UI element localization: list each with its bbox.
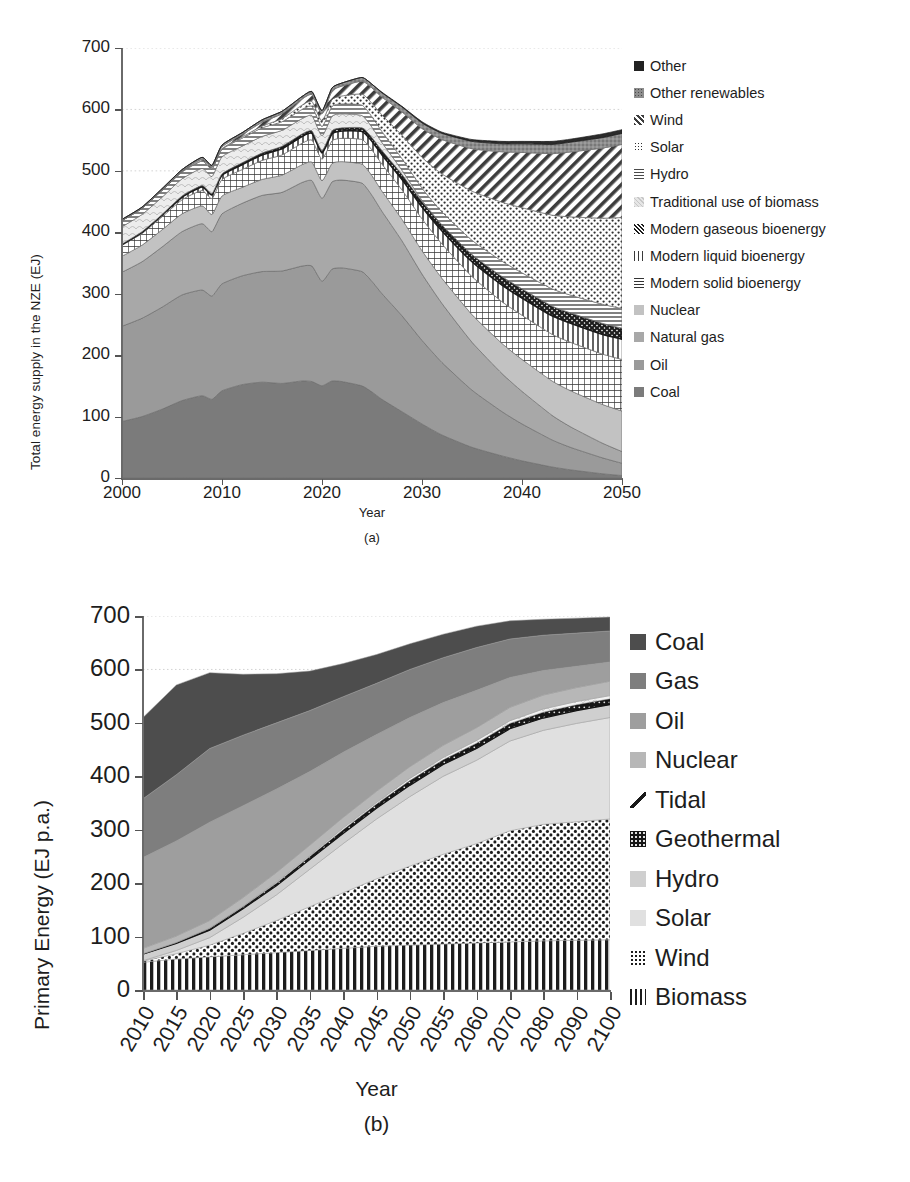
x-tickmark bbox=[410, 992, 412, 1000]
y-tickmark bbox=[115, 478, 122, 479]
legend-item-oil[interactable]: Oil bbox=[630, 701, 910, 741]
x-tickmark bbox=[510, 992, 512, 1000]
legend-swatch-icon bbox=[634, 387, 644, 397]
legend-swatch-icon bbox=[630, 634, 646, 650]
subcaption-a: (a) bbox=[122, 530, 622, 545]
figure-container: Total energy supply in the NZE (EJ) 0100… bbox=[0, 0, 910, 1182]
legend-item-coal[interactable]: Coal bbox=[634, 378, 910, 405]
legend-item-traditional-use-of-biomass[interactable]: Traditional use of biomass bbox=[634, 188, 910, 215]
subcaption-b: (b) bbox=[143, 1112, 610, 1136]
y-tickmark bbox=[115, 232, 122, 233]
x-tickmark bbox=[610, 992, 612, 1000]
legend-label: Nuclear bbox=[650, 302, 700, 318]
x-axis-title-a: Year bbox=[122, 505, 622, 520]
legend-label: Biomass bbox=[655, 983, 747, 1011]
stacked-area-svg-b bbox=[143, 616, 610, 990]
legend-label: Wind bbox=[650, 112, 683, 128]
x-tickmark bbox=[422, 479, 423, 485]
legend-item-natural-gas[interactable]: Natural gas bbox=[634, 324, 910, 351]
y-tick-label: 0 bbox=[50, 975, 130, 1003]
x-tick-label: 2020 bbox=[277, 483, 367, 503]
legend-item-solar[interactable]: Solar bbox=[630, 899, 910, 939]
y-axis-line-a bbox=[121, 48, 123, 479]
x-tickmark bbox=[577, 992, 579, 1000]
legend-swatch-icon bbox=[634, 61, 644, 71]
legend-item-modern-liquid-bioenergy[interactable]: Modern liquid bioenergy bbox=[634, 242, 910, 269]
plot-area-b bbox=[143, 616, 610, 990]
legend-item-other-renewables[interactable]: Other renewables bbox=[634, 79, 910, 106]
legend-item-modern-gaseous-bioenergy[interactable]: Modern gaseous bioenergy bbox=[634, 215, 910, 242]
legend-item-other[interactable]: Other bbox=[634, 52, 910, 79]
legend-swatch-icon bbox=[630, 792, 646, 808]
legend-swatch-icon bbox=[630, 752, 646, 768]
y-tickmark bbox=[115, 355, 122, 356]
y-tickmark bbox=[115, 109, 122, 110]
y-tickmark bbox=[135, 616, 143, 618]
x-tick-label: 2040 bbox=[477, 483, 567, 503]
legend-swatch-icon bbox=[634, 88, 644, 98]
legend-item-solar[interactable]: Solar bbox=[634, 134, 910, 161]
legend-item-oil[interactable]: Oil bbox=[634, 351, 910, 378]
y-tick-label: 600 bbox=[46, 98, 110, 118]
legend-label: Other bbox=[650, 58, 686, 74]
legend-item-nuclear[interactable]: Nuclear bbox=[634, 297, 910, 324]
y-tick-label: 500 bbox=[46, 160, 110, 180]
legend-item-wind[interactable]: Wind bbox=[634, 106, 910, 133]
x-tick-label: 2050 bbox=[577, 483, 667, 503]
chart-panel-a: Total energy supply in the NZE (EJ) 0100… bbox=[0, 0, 910, 560]
y-tick-label: 400 bbox=[50, 761, 130, 789]
legend-label: Modern gaseous bioenergy bbox=[650, 221, 826, 237]
legend-swatch-icon bbox=[630, 831, 646, 847]
y-axis-title-a: Total energy supply in the NZE (EJ) bbox=[28, 254, 43, 470]
legend-item-geothermal[interactable]: Geothermal bbox=[630, 820, 910, 860]
chart-panel-b: Primary Energy (EJ p.a.) 010020030040050… bbox=[0, 560, 910, 1182]
legend-b: CoalGasOilNuclearTidalGeothermalHydroSol… bbox=[630, 622, 910, 1017]
legend-item-hydro[interactable]: Hydro bbox=[634, 161, 910, 188]
legend-item-modern-solid-bioenergy[interactable]: Modern solid bioenergy bbox=[634, 270, 910, 297]
legend-swatch-icon bbox=[634, 278, 644, 288]
legend-label: Geothermal bbox=[655, 825, 780, 853]
x-tickmark bbox=[310, 992, 312, 1000]
x-tickmark bbox=[276, 992, 278, 1000]
legend-item-coal[interactable]: Coal bbox=[630, 622, 910, 662]
legend-label: Oil bbox=[655, 707, 684, 735]
legend-item-nuclear[interactable]: Nuclear bbox=[630, 741, 910, 781]
legend-swatch-icon bbox=[630, 871, 646, 887]
legend-swatch-icon bbox=[634, 115, 644, 125]
y-tick-label: 500 bbox=[50, 708, 130, 736]
x-tickmark bbox=[176, 992, 178, 1000]
legend-a: OtherOther renewablesWindSolarHydroTradi… bbox=[634, 52, 910, 405]
legend-label: Gas bbox=[655, 667, 699, 695]
y-tick-label: 100 bbox=[46, 406, 110, 426]
x-tickmark bbox=[343, 992, 345, 1000]
legend-label: Oil bbox=[650, 357, 668, 373]
legend-item-wind[interactable]: Wind bbox=[630, 938, 910, 978]
x-tick-label: 2030 bbox=[377, 483, 467, 503]
legend-swatch-icon bbox=[630, 713, 646, 729]
legend-item-hydro[interactable]: Hydro bbox=[630, 859, 910, 899]
y-tickmark bbox=[115, 417, 122, 418]
legend-label: Natural gas bbox=[650, 329, 724, 345]
x-tick-label: 2000 bbox=[77, 483, 167, 503]
legend-item-biomass[interactable]: Biomass bbox=[630, 978, 910, 1018]
legend-label: Solar bbox=[655, 904, 711, 932]
legend-swatch-icon bbox=[630, 989, 646, 1005]
area-layers-b bbox=[143, 617, 610, 990]
x-tickmark bbox=[543, 992, 545, 1000]
x-tickmark bbox=[322, 479, 323, 485]
y-tickmark bbox=[135, 830, 143, 832]
legend-swatch-icon bbox=[634, 197, 644, 207]
legend-item-gas[interactable]: Gas bbox=[630, 662, 910, 702]
y-tick-label: 200 bbox=[46, 344, 110, 364]
stacked-area-svg-a bbox=[122, 48, 622, 478]
y-tick-label: 200 bbox=[50, 868, 130, 896]
y-axis-line-b bbox=[142, 616, 144, 991]
legend-swatch-icon bbox=[634, 360, 644, 370]
legend-swatch-icon bbox=[634, 224, 644, 234]
x-tickmark bbox=[443, 992, 445, 1000]
x-tickmark bbox=[243, 992, 245, 1000]
legend-label: Other renewables bbox=[650, 85, 764, 101]
x-tickmark bbox=[522, 479, 523, 485]
legend-label: Solar bbox=[650, 139, 684, 155]
legend-item-tidal[interactable]: Tidal bbox=[630, 780, 910, 820]
